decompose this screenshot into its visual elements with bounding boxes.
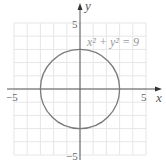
y-axis-arrow-icon bbox=[78, 3, 83, 10]
y-tick-max: 5 bbox=[72, 18, 78, 30]
circle-plot: y x 5 −5 −5 5 x² + y² = 9 bbox=[0, 0, 166, 168]
equation-label: x² + y² = 9 bbox=[86, 35, 139, 49]
x-tick-min: −5 bbox=[6, 91, 18, 103]
y-tick-min: −5 bbox=[66, 150, 78, 162]
x-axis-label: x bbox=[155, 90, 162, 105]
y-axis-label: y bbox=[83, 0, 91, 13]
x-tick-max: 5 bbox=[141, 91, 147, 103]
